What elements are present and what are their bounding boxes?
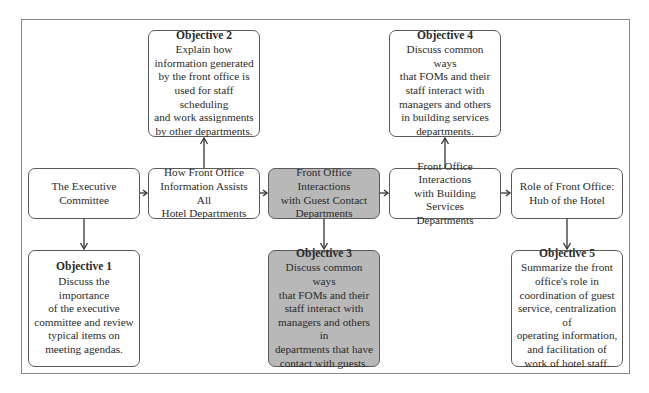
arrow-right-icon <box>380 190 388 196</box>
connector-arrows <box>0 0 649 393</box>
arrow-down-icon <box>321 219 328 249</box>
arrow-down-icon <box>81 219 88 249</box>
arrow-right-icon <box>501 190 510 196</box>
arrow-up-icon <box>201 138 208 168</box>
arrow-up-icon <box>442 138 449 168</box>
arrow-right-icon <box>140 190 147 196</box>
arrow-down-icon <box>564 219 571 249</box>
arrow-right-icon <box>260 190 267 196</box>
